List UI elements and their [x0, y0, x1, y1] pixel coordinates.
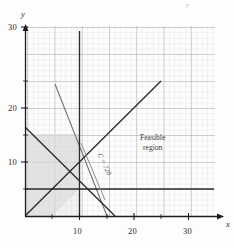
x-tick-label-20: 20 [128, 226, 137, 236]
feasible-region-label-line2: region [143, 143, 162, 153]
shaded-region [25, 134, 79, 216]
graph-figure: 30 20 10 10 20 30 y x Feasible region C … [0, 0, 234, 248]
plot-canvas [0, 0, 234, 248]
x-tick-label-10: 10 [73, 226, 82, 236]
y-tick-label-20: 20 [8, 103, 17, 113]
feasible-region-label-line1: Feasible [140, 133, 165, 143]
x-tick-label-30: 30 [183, 226, 192, 236]
x-axis-arrow [217, 214, 224, 220]
corner-mark: y [186, 1, 189, 9]
y-tick-label-10: 10 [8, 157, 17, 167]
y-tick-label-30: 30 [8, 22, 17, 32]
x-axis-label: x [226, 219, 230, 229]
y-axis-label: y [21, 9, 25, 19]
